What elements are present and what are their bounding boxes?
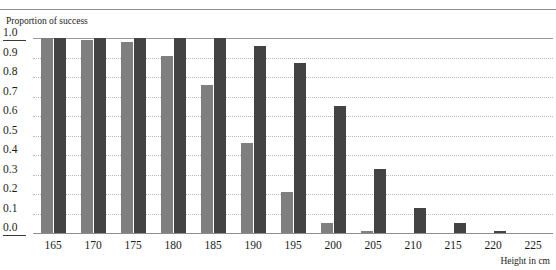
x-tick-label: 165 <box>33 239 73 251</box>
gridline <box>33 58 553 59</box>
x-tick-label: 220 <box>473 239 513 251</box>
bar <box>94 38 106 233</box>
bar <box>174 38 186 233</box>
x-tick-label: 180 <box>153 239 193 251</box>
bar <box>454 223 466 233</box>
y-tick-label: 0.1 <box>3 203 29 215</box>
y-tick-label: 0.9 <box>3 47 29 59</box>
bar <box>281 192 293 233</box>
bar <box>241 143 253 233</box>
bar <box>161 56 173 233</box>
x-tick-label: 190 <box>233 239 273 251</box>
figure-container: Proportion of success 1.00.90.80.70.60.5… <box>0 0 556 270</box>
bar <box>41 38 53 233</box>
y-tick-label: 0.6 <box>3 105 29 117</box>
bar <box>374 169 386 233</box>
x-tick-label: 175 <box>113 239 153 251</box>
x-tick-label: 170 <box>73 239 113 251</box>
y-tick-label: 0.2 <box>3 183 29 195</box>
y-tick-label: 0.5 <box>3 125 29 137</box>
bar <box>214 38 226 233</box>
gridline <box>33 38 553 39</box>
y-axis-title: Proportion of success <box>6 16 88 26</box>
bar <box>54 38 66 233</box>
x-tick-label: 200 <box>313 239 353 251</box>
bar <box>121 42 133 233</box>
x-axis-title: Height in cm <box>500 256 550 266</box>
x-tick-label: 210 <box>393 239 433 251</box>
x-axis-baseline <box>33 233 553 234</box>
plot-area <box>33 38 553 233</box>
bar <box>414 208 426 233</box>
x-tick-label: 185 <box>193 239 233 251</box>
y-tick-label: 0.3 <box>3 164 29 176</box>
x-tick-label: 195 <box>273 239 313 251</box>
bar <box>334 106 346 233</box>
bar <box>134 38 146 233</box>
y-tick-label: 0.7 <box>3 86 29 98</box>
y-tick-label: 0.8 <box>3 66 29 78</box>
y-tick-label: 1.0 <box>3 27 26 41</box>
x-tick-label: 215 <box>433 239 473 251</box>
bar <box>321 223 333 233</box>
x-tick-label: 225 <box>513 239 553 251</box>
y-tick-label: 0.0 <box>3 222 26 236</box>
y-tick-label: 0.4 <box>3 144 29 156</box>
caption-remnant <box>0 0 556 3</box>
bar <box>201 85 213 233</box>
bar <box>254 46 266 233</box>
bar <box>81 40 93 233</box>
x-tick-label: 205 <box>353 239 393 251</box>
top-horizontal-rule <box>0 9 556 10</box>
bar <box>294 63 306 233</box>
